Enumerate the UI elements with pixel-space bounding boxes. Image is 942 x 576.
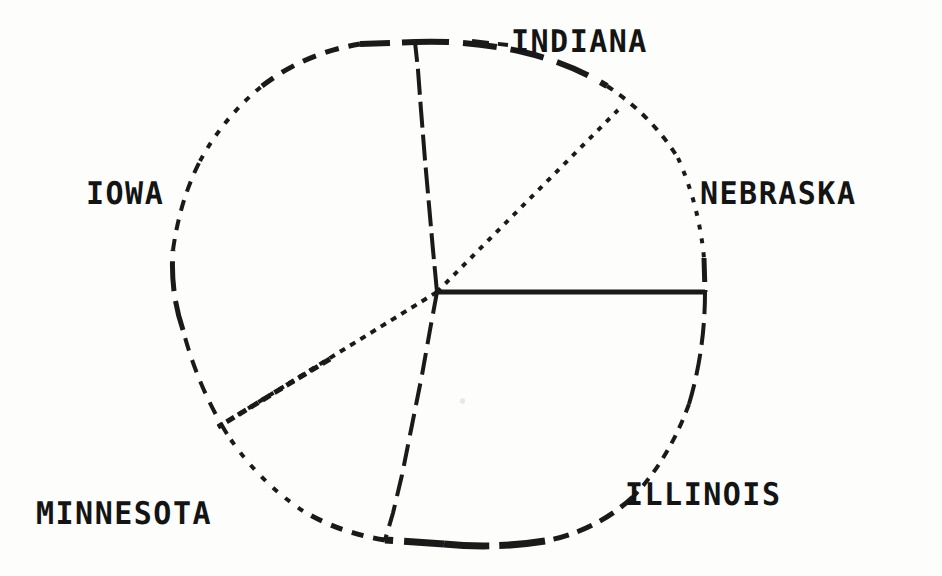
divider-indiana-iowa — [415, 42, 437, 292]
slice-label-iowa: IOWA — [86, 180, 164, 210]
paper-speck — [460, 398, 465, 404]
slice-label-illinois: ILLINOIS — [625, 481, 782, 511]
pie-chart-canvas — [0, 0, 942, 576]
pie-dividers — [218, 42, 705, 540]
slice-label-indiana: INDIANA — [511, 28, 648, 58]
divider-indiana-nebraska — [437, 110, 618, 292]
slice-label-nebraska: NEBRASKA — [700, 180, 857, 210]
divider-illinois-minnesota — [385, 292, 437, 540]
slice-label-minnesota: MINNESOTA — [36, 500, 212, 530]
pie-chart-figure: INDIANA NEBRASKA ILLINOIS MINNESOTA IOWA — [0, 0, 942, 576]
